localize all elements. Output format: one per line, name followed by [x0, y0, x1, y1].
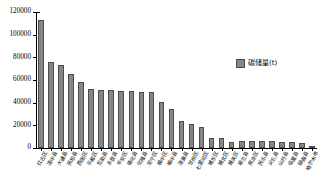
x-tick-mark — [282, 148, 283, 151]
x-tick-mark — [242, 148, 243, 151]
bar — [98, 90, 104, 148]
x-tick-mark — [232, 148, 233, 151]
bar — [259, 141, 265, 148]
legend-label: 碳储量(t) — [248, 60, 277, 67]
x-tick-mark — [131, 148, 132, 151]
x-tick-mark — [81, 148, 82, 151]
legend-swatch-icon — [236, 59, 245, 68]
bar — [129, 91, 135, 148]
x-tick-mark — [151, 148, 152, 151]
y-tick-label: 120000 — [9, 8, 31, 15]
x-tick-mark — [182, 148, 183, 151]
y-axis-labels: 020000400006000080000100000120000 — [0, 0, 36, 191]
bar — [78, 82, 84, 148]
x-axis-line — [36, 148, 317, 149]
y-tick-mark — [33, 125, 36, 126]
y-tick-label: 60000 — [13, 76, 31, 83]
x-axis-labels: 红古区湟中县大通县民和县西固区乐都区互助县永登县平安区循化县化隆县安宁区城中区榆… — [36, 151, 324, 191]
y-tick-label: 40000 — [13, 99, 31, 106]
chart-legend: 碳储量(t) — [236, 59, 277, 68]
bar — [68, 74, 74, 148]
y-tick-mark — [33, 80, 36, 81]
bar — [189, 124, 195, 148]
x-tick-mark — [292, 148, 293, 151]
x-tick-mark — [91, 148, 92, 151]
bar — [219, 138, 225, 148]
bar — [179, 121, 185, 148]
bar — [118, 91, 124, 148]
x-tick-mark — [111, 148, 112, 151]
x-tick-mark — [312, 148, 313, 151]
bar — [88, 89, 94, 148]
x-tick-mark — [141, 148, 142, 151]
y-tick-mark — [33, 103, 36, 104]
y-tick-label: 80000 — [13, 54, 31, 61]
y-tick-mark — [33, 57, 36, 58]
x-tick-mark — [51, 148, 52, 151]
bar — [269, 141, 275, 148]
x-tick-mark — [121, 148, 122, 151]
y-tick-label: 20000 — [13, 122, 31, 129]
x-tick-mark — [192, 148, 193, 151]
y-tick-mark — [33, 35, 36, 36]
bar — [108, 90, 114, 148]
plot-area — [36, 12, 317, 148]
x-tick-mark — [71, 148, 72, 151]
bar — [38, 20, 44, 148]
bar — [249, 141, 255, 148]
x-tick-mark — [212, 148, 213, 151]
bar — [209, 138, 215, 148]
y-tick-label: 100000 — [9, 31, 31, 38]
x-tick-mark — [222, 148, 223, 151]
x-tick-mark — [61, 148, 62, 151]
bar — [169, 109, 175, 148]
x-tick-mark — [262, 148, 263, 151]
x-tick-mark — [171, 148, 172, 151]
bar — [159, 102, 165, 148]
bar — [139, 92, 145, 148]
y-tick-mark — [33, 12, 36, 13]
x-tick-mark — [202, 148, 203, 151]
x-tick-mark — [101, 148, 102, 151]
x-tick-mark — [302, 148, 303, 151]
y-tick-label: 0 — [27, 144, 31, 151]
x-tick-mark — [41, 148, 42, 151]
bar — [239, 141, 245, 148]
x-tick-mark — [272, 148, 273, 151]
bar — [199, 127, 205, 148]
x-tick-mark — [252, 148, 253, 151]
bar-series — [36, 12, 317, 148]
chart-figure: 020000400006000080000100000120000 红古区湟中县… — [0, 0, 324, 191]
x-tick-mark — [161, 148, 162, 151]
bar — [58, 65, 64, 148]
bar — [149, 92, 155, 148]
y-tick-mark — [33, 148, 36, 149]
bar — [48, 62, 54, 148]
